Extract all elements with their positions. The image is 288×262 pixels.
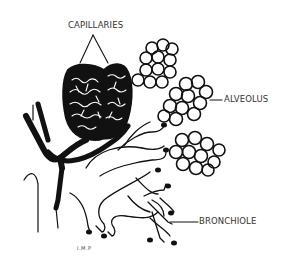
alveoli-diagram: CAPILLARIES ALVEOLUS BRONCHIOLE I.M.P [0, 0, 288, 262]
alveolus-label: ALVEOLUS [224, 94, 268, 104]
alveolus-cluster-top [132, 39, 178, 88]
alveolus-cluster-bottom [170, 132, 226, 177]
bronchiole-label: BRONCHIOLE [199, 216, 256, 226]
capillary-network [63, 64, 131, 140]
tissue-outline [24, 174, 38, 232]
bronchiole-tips [86, 123, 177, 246]
capillaries-pointer [80, 35, 108, 63]
artist-signature: I.M.P [77, 245, 91, 251]
capillaries-label: CAPILLARIES [68, 20, 123, 30]
alveolus-cluster-middle [158, 76, 213, 126]
